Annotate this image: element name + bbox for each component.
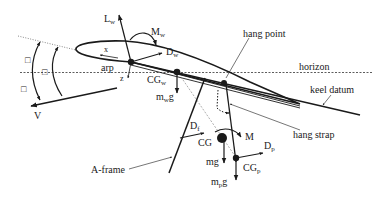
angle-symbol-3: □ — [21, 84, 27, 94]
horizon-label: horizon — [299, 61, 330, 72]
drag-wing-arrow — [131, 53, 162, 62]
angle-arc-inner — [52, 47, 62, 96]
angle-arc-outer — [33, 42, 41, 100]
a-frame-label: A-frame — [91, 164, 125, 175]
hang-strap-leader — [230, 104, 300, 130]
weight-pilot-label: mpg — [211, 176, 227, 189]
z-axis-label: z — [120, 74, 124, 83]
drag-pilot-label: Dp — [264, 140, 275, 153]
lift-wing-arrow — [119, 15, 131, 62]
a-frame — [169, 78, 205, 173]
free-body-diagram: □ □ □ V Lw Mw Dw x z arp CGw mwg hang po… — [0, 0, 392, 198]
arp-point — [128, 59, 134, 65]
drag-wing-label: Dw — [166, 46, 179, 59]
lift-wing-label: Lw — [104, 13, 116, 26]
hang-point-leader — [226, 38, 249, 78]
drag-frame-label: Df — [190, 120, 200, 133]
arp-label: arp — [101, 62, 114, 73]
keel-datum-label: keel datum — [310, 84, 354, 95]
keel-datum-leader — [323, 95, 331, 105]
weight-wing-label: mwg — [156, 91, 174, 104]
cg-point — [217, 133, 227, 143]
cg-label: CG — [198, 137, 212, 148]
hang-strap-label: hang strap — [293, 129, 334, 140]
angle-symbol-1: □ — [25, 55, 31, 65]
velocity-label: V — [34, 110, 42, 121]
cg-pilot-label: CGp — [243, 162, 261, 175]
moment-wing-label: Mw — [151, 26, 166, 39]
x-axis-label: x — [104, 45, 108, 54]
angle-symbol-2: □ — [42, 67, 48, 77]
drag-pilot-arrow — [236, 153, 263, 158]
weight-label: mg — [206, 156, 219, 167]
cg-wing-label: CGw — [147, 74, 167, 87]
moment-label: M — [245, 131, 254, 142]
velocity-line — [31, 88, 117, 106]
hang-point-label: hang point — [243, 28, 286, 39]
x-axis-arrow — [100, 55, 118, 58]
a-frame-leader — [129, 157, 172, 169]
chord-extension-line — [18, 36, 76, 50]
